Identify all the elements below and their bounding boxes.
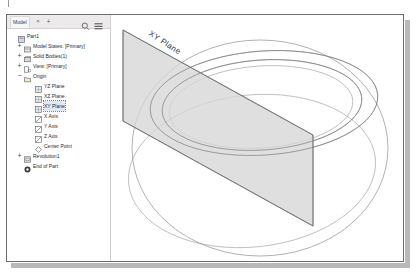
expand-icon[interactable]: + xyxy=(16,62,23,69)
tree-item-label: Part1 xyxy=(27,31,39,41)
tree-item-yz-plane[interactable]: YZ Plane xyxy=(7,81,110,91)
tree-item-x-axis[interactable]: X Axis xyxy=(7,111,110,121)
model-browser-panel: Model × + Part1 xyxy=(7,15,111,261)
view-icon xyxy=(24,63,31,70)
tree-item-y-axis[interactable]: Y Axis xyxy=(7,121,110,131)
plane-icon xyxy=(35,103,42,110)
tree-item-origin[interactable]: −Origin xyxy=(7,71,110,81)
tree-item-label: X Axis xyxy=(44,111,58,121)
tree-item-xy-plane[interactable]: XY Plane xyxy=(7,101,110,111)
tree-item-solid-bodies-1[interactable]: +Solid Bodies(1) xyxy=(7,51,110,61)
tree-item-view-primary[interactable]: +View: [Primary] xyxy=(7,61,110,71)
tree-item-label: XY Plane xyxy=(44,101,65,111)
tree-item-center-point[interactable]: Center Point xyxy=(7,141,110,151)
tree-item-label: XZ Plane xyxy=(44,91,65,101)
tree-item-label: Model States: [Primary] xyxy=(33,41,85,51)
tree-item-z-axis[interactable]: Z Axis xyxy=(7,131,110,141)
end-of-part-icon xyxy=(24,163,31,170)
tree-item-label: Revolution1 xyxy=(33,151,59,161)
tree-item-part1[interactable]: Part1 xyxy=(7,31,110,41)
revolution-icon xyxy=(24,153,31,160)
expand-icon[interactable]: + xyxy=(16,52,23,59)
graphics-viewport[interactable]: XY Plane xyxy=(112,15,403,261)
model-geometry xyxy=(112,15,403,261)
close-icon[interactable]: × xyxy=(35,18,41,25)
browser-toolbar: Model × + xyxy=(7,15,110,29)
plane-icon xyxy=(35,83,42,90)
tree-item-label: End of Part xyxy=(33,161,58,171)
tree-item-label: YZ Plane xyxy=(44,81,65,91)
window-shadow-bottom xyxy=(11,263,410,268)
model-tree[interactable]: Part1+Model States: [Primary]+Solid Bodi… xyxy=(7,29,110,261)
tab-model[interactable]: Model xyxy=(10,16,30,28)
screenshot-root: Model × + Part1 xyxy=(0,0,417,272)
application-window: Model × + Part1 xyxy=(6,14,404,262)
tree-item-label: Center Point xyxy=(44,141,72,151)
window-shadow-right xyxy=(405,20,410,267)
axis-icon xyxy=(35,133,42,140)
expand-icon[interactable]: + xyxy=(16,42,23,49)
origin-folder-icon xyxy=(24,73,31,80)
part-document-icon xyxy=(18,33,25,40)
tree-item-label: Origin xyxy=(33,71,46,81)
center-point-icon xyxy=(35,143,42,150)
tree-item-label: Y Axis xyxy=(44,121,58,131)
search-icon[interactable] xyxy=(81,17,90,26)
model-states-icon xyxy=(24,43,31,50)
tree-item-revolution1[interactable]: +Revolution1 xyxy=(7,151,110,161)
tree-item-label: Solid Bodies(1) xyxy=(33,51,67,61)
stray-tick-mark xyxy=(8,0,9,7)
axis-icon xyxy=(35,123,42,130)
expand-icon[interactable]: + xyxy=(16,152,23,159)
tree-item-end-of-part[interactable]: End of Part xyxy=(7,161,110,171)
solid-bodies-icon xyxy=(24,53,31,60)
tree-item-xz-plane[interactable]: XZ Plane xyxy=(7,91,110,101)
tree-item-label: View: [Primary] xyxy=(33,61,67,71)
tree-item-model-states-primary[interactable]: +Model States: [Primary] xyxy=(7,41,110,51)
collapse-icon[interactable]: − xyxy=(16,72,23,79)
plane-icon xyxy=(35,93,42,100)
tab-model-label: Model xyxy=(13,19,27,25)
axis-icon xyxy=(35,113,42,120)
add-tab-icon[interactable]: + xyxy=(45,18,52,25)
hamburger-menu-icon[interactable] xyxy=(94,17,103,26)
tree-item-label: Z Axis xyxy=(44,131,58,141)
